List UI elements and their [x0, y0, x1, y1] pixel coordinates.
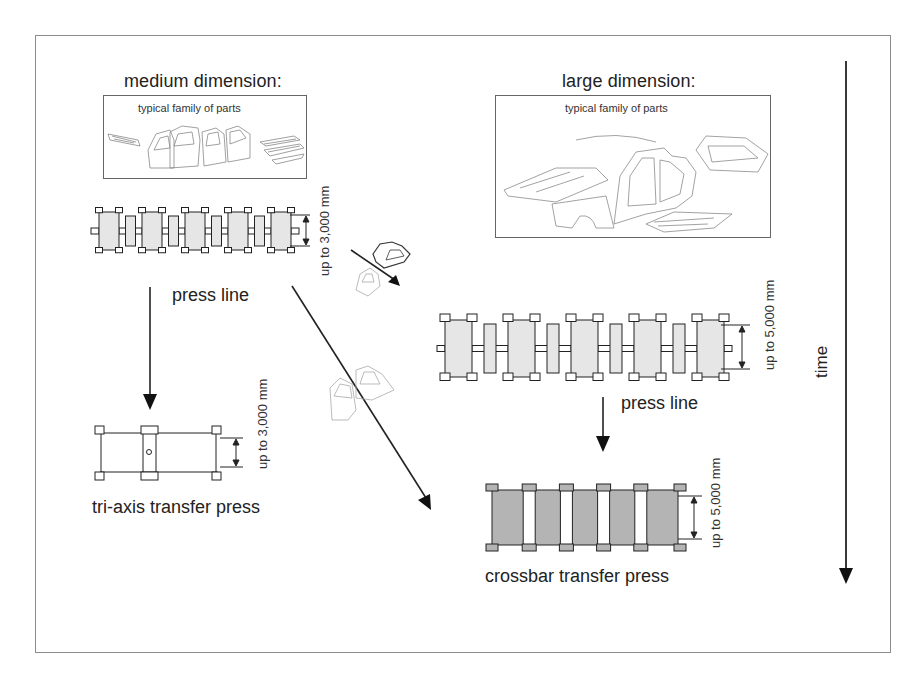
crossbar-dimension-arrow-icon	[678, 496, 702, 539]
diagonal-arrow-long-icon	[292, 286, 431, 510]
tri-axis-transfer-press-drawing	[95, 426, 221, 480]
large-down-arrow-icon	[596, 397, 610, 452]
time-arrow-icon	[839, 61, 853, 584]
door-pair-sketch-icon	[330, 366, 394, 420]
door-sketch-faint-icon	[356, 268, 380, 296]
door-sketch-icon	[373, 242, 410, 268]
medium-down-arrow-icon	[143, 287, 157, 410]
medium-dimension-arrow-icon	[290, 215, 310, 246]
tri-axis-dimension-arrow-icon	[220, 438, 243, 467]
large-dimension-arrow-icon	[721, 325, 750, 369]
arrows-and-annotations	[0, 0, 920, 689]
